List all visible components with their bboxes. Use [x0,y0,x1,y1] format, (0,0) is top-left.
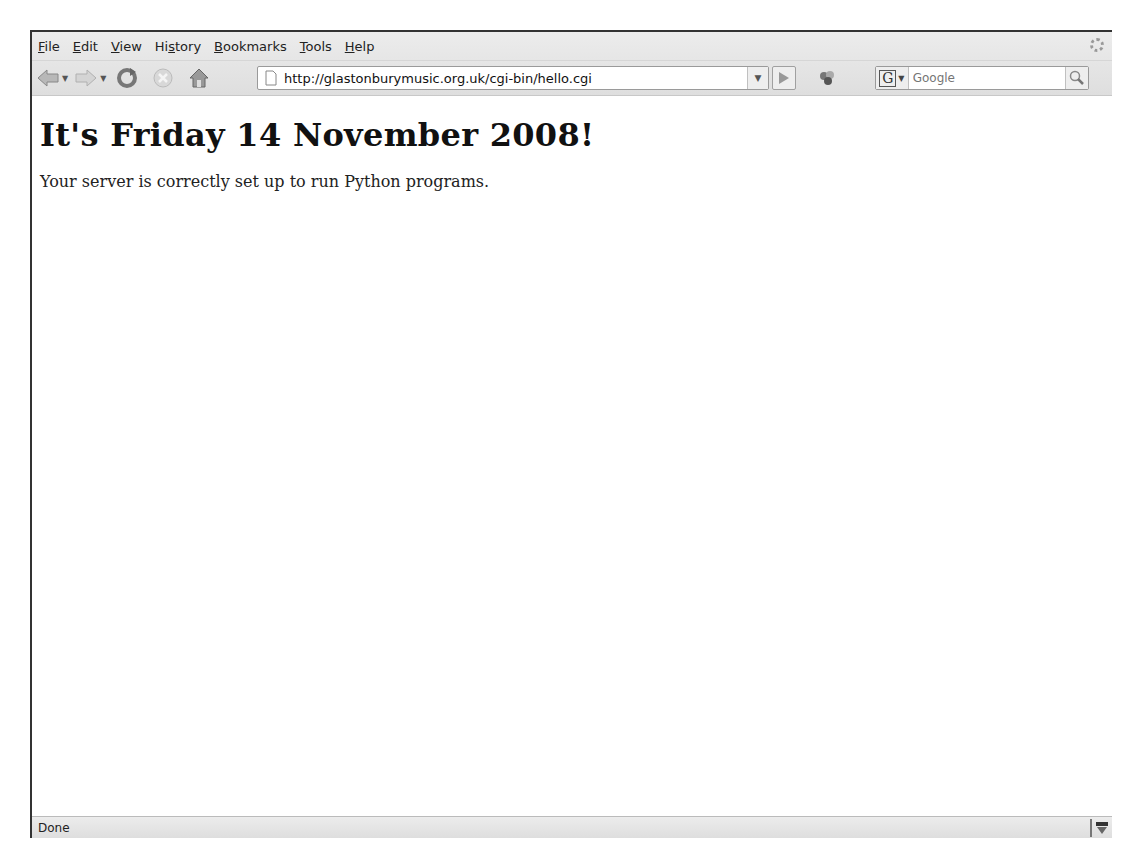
page-icon [264,70,278,86]
url-bar[interactable]: http://glastonburymusic.org.uk/cgi-bin/h… [257,66,769,90]
search-engine-selector[interactable]: G ▼ [876,67,909,89]
status-addon-icon [1095,821,1109,835]
page-message: Your server is correctly set up to run P… [40,172,1104,191]
menu-tools-label: ools [305,39,331,54]
menu-edit-label: dit [81,39,98,54]
reload-icon [116,67,138,89]
menu-help[interactable]: Help [345,39,375,54]
navigation-toolbar: ▼ ▼ http://glastonburymusic.org.uk/cgi-b… [32,61,1112,96]
google-engine-icon: G [879,70,896,87]
stop-button[interactable] [152,65,174,91]
menu-help-label: elp [355,39,375,54]
menu-edit-accel: E [73,39,81,54]
status-addon-button[interactable] [1090,819,1112,837]
menu-bookmarks-accel: B [214,39,223,54]
menu-file-label: ile [45,39,60,54]
menu-view[interactable]: View [111,39,142,54]
extension-button[interactable] [819,70,835,90]
menu-bookmarks[interactable]: Bookmarks [214,39,287,54]
menu-view-accel: V [111,39,120,54]
forward-arrow-icon [74,68,98,88]
menu-edit[interactable]: Edit [73,39,98,54]
status-text: Done [38,821,70,835]
menu-history[interactable]: History [155,39,201,54]
menu-history-label: tory [175,39,201,54]
menu-file[interactable]: File [38,39,60,54]
go-button[interactable] [772,66,796,90]
back-button[interactable] [36,65,60,91]
home-button[interactable] [188,65,210,91]
menu-bar: File Edit View History Bookmarks Tools H… [32,32,1112,61]
menu-bookmarks-label: ookmarks [223,39,287,54]
url-history-dropdown[interactable]: ▼ [747,67,768,89]
browser-window: File Edit View History Bookmarks Tools H… [30,30,1112,838]
forward-history-dropdown[interactable]: ▼ [100,74,106,83]
search-bar: G ▼ [875,66,1089,90]
menu-history-pre: Hi [155,39,168,54]
search-input[interactable] [909,70,1065,86]
menu-history-accel: s [168,39,175,54]
stop-icon [152,67,174,89]
back-history-dropdown[interactable]: ▼ [62,74,68,83]
reload-button[interactable] [116,65,138,91]
engine-dropdown-icon: ▼ [898,74,904,83]
url-text[interactable]: http://glastonburymusic.org.uk/cgi-bin/h… [284,71,747,86]
magnifier-icon [1069,70,1085,86]
forward-button[interactable] [74,65,98,91]
menu-view-label: iew [120,39,142,54]
back-arrow-icon [36,68,60,88]
browser-chrome: File Edit View History Bookmarks Tools H… [32,32,1112,96]
search-button[interactable] [1065,67,1088,89]
menu-help-accel: H [345,39,355,54]
menu-tools[interactable]: Tools [300,39,332,54]
home-icon [188,67,210,89]
page-heading: It's Friday 14 November 2008! [40,116,1104,154]
go-arrow-icon [778,71,790,85]
status-bar: Done [32,816,1112,838]
page-content: It's Friday 14 November 2008! Your serve… [32,96,1112,816]
throbber-icon [1090,38,1104,52]
extension-icon [819,70,835,86]
